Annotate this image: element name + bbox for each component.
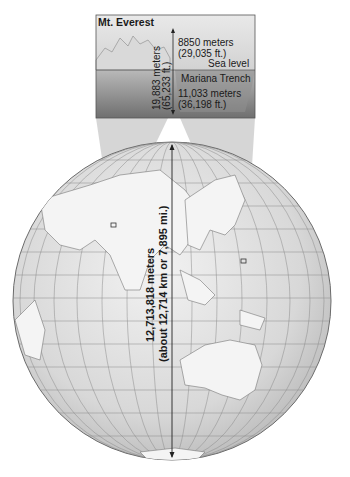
everest-title: Mt. Everest xyxy=(98,16,155,28)
total-relief-ft: (65,233 ft.) xyxy=(161,62,172,110)
trench-name: Mariana Trench xyxy=(181,73,250,84)
earth-relief-diagram: 12,713,818 meters (about 12,714 km or 7,… xyxy=(0,0,350,477)
sea-level-label: Sea level xyxy=(208,58,249,69)
globe-diameter-label: 12,713,818 meters xyxy=(144,248,156,342)
globe: 12,713,818 meters (about 12,714 km or 7,… xyxy=(0,142,350,462)
trench-depth-ft: (36,198 ft.) xyxy=(178,99,226,110)
elevation-inset: Mt. Everest 8850 meters (29,035 ft.) Sea… xyxy=(96,15,255,118)
globe-diameter-alt-label: (about 12,714 km or 7,895 mi.) xyxy=(157,205,169,362)
everest-height-m: 8850 meters xyxy=(178,37,234,48)
trench-depth-m: 11,033 meters xyxy=(178,88,241,99)
